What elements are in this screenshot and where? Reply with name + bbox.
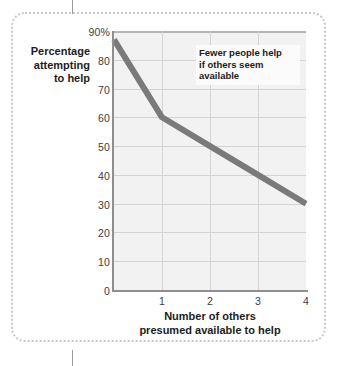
annotation-line1: Fewer people help	[199, 47, 297, 59]
y-axis-line	[112, 31, 114, 290]
x-tick-label-3: 3	[249, 295, 267, 307]
y-axis-title: Percentage attempting to help	[22, 45, 90, 86]
x-axis-title-line2: presumed available to help	[114, 324, 306, 338]
y-tick-label-20: 20	[76, 227, 110, 239]
chart-annotation: Fewer people help if others seem availab…	[196, 45, 300, 85]
y-tick-label-90: 90%	[76, 26, 110, 38]
x-tick-label-4: 4	[297, 295, 315, 307]
y-axis-title-line3: to help	[22, 72, 90, 86]
y-tick-label-0: 0	[76, 285, 110, 297]
y-axis-title-line2: attempting	[22, 59, 90, 73]
y-tick-label-50: 50	[76, 141, 110, 153]
annotation-line2: if others seem	[199, 59, 297, 71]
x-tick-label-2: 2	[201, 295, 219, 307]
y-tick-label-10: 10	[76, 256, 110, 268]
x-axis-line	[112, 290, 308, 292]
y-axis-title-line1: Percentage	[22, 45, 90, 59]
y-tick-label-30: 30	[76, 199, 110, 211]
y-tick-label-60: 60	[76, 112, 110, 124]
y-tick-label-40: 40	[76, 170, 110, 182]
x-axis-title: Number of others presumed available to h…	[114, 310, 306, 337]
x-axis-title-line1: Number of others	[114, 310, 306, 324]
annotation-line3: available	[199, 70, 297, 82]
x-tick-label-1: 1	[153, 295, 171, 307]
